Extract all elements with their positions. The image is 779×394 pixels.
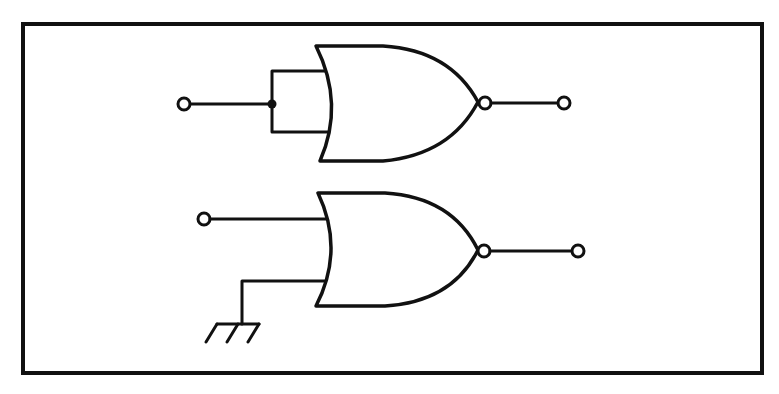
- gate1-nor-body: [316, 46, 478, 161]
- gate1-input-terminal: [178, 98, 190, 110]
- gate2-nor-body: [316, 193, 478, 306]
- circuit-diagram: [0, 0, 779, 394]
- gate2-output-terminal: [572, 245, 584, 257]
- gate2-ground-wire: [242, 281, 325, 324]
- gate1-tied-inputs-wire: [272, 71, 332, 132]
- nor-gate-1: [178, 46, 570, 161]
- gate1-inversion-bubble: [479, 97, 491, 109]
- gate2-inversion-bubble: [478, 245, 490, 257]
- gate1-output-terminal: [558, 97, 570, 109]
- nor-gate-2: [198, 193, 584, 342]
- ground-icon: [206, 324, 259, 342]
- gate2-input-terminal: [198, 213, 210, 225]
